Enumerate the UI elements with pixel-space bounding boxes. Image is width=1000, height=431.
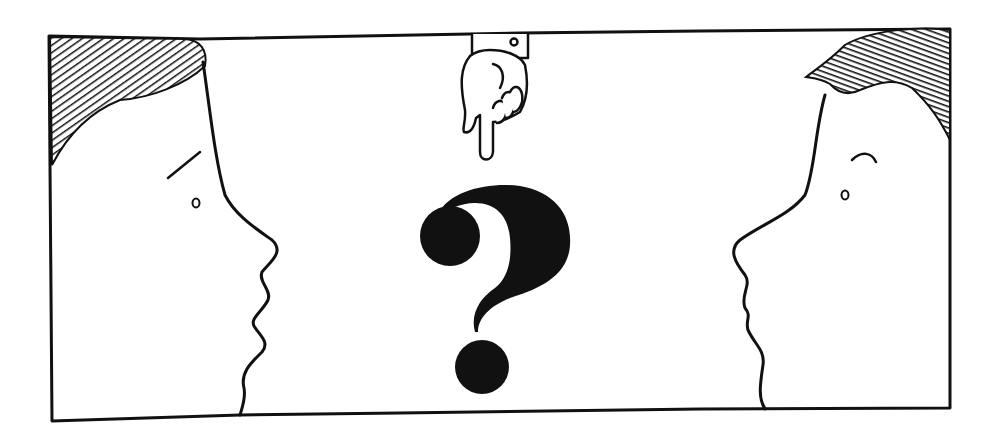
right-profile-face [734, 29, 950, 409]
pointing-hand-icon [462, 34, 528, 160]
left-hair [50, 37, 206, 165]
question-mark-icon [420, 185, 570, 394]
illustration-panel [0, 0, 1000, 431]
right-hair [806, 29, 950, 140]
left-profile-face [50, 37, 277, 415]
